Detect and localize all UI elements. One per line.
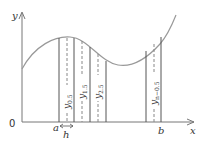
x-axis-label: x (190, 125, 196, 136)
step-label: h (63, 129, 69, 140)
interval-end-label: b (158, 125, 164, 136)
function-curve (22, 15, 176, 69)
interval-start-label: a (53, 122, 59, 133)
origin-label: 0 (9, 118, 15, 129)
y-axis-label: y (11, 10, 18, 21)
midpoint-rule-diagram: y0.5 y1.5 y2.5 yn−0.5 y x 0 a b h (0, 0, 205, 142)
